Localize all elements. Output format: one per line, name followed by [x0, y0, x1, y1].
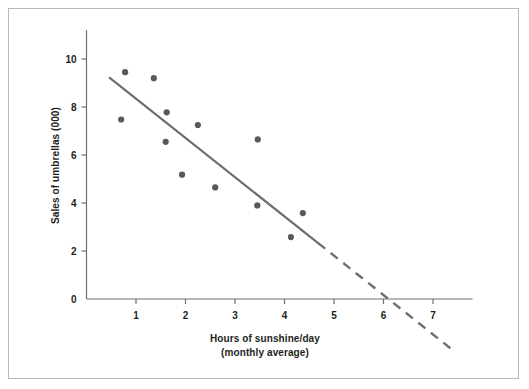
- data-point: [122, 69, 128, 75]
- trend-line: [110, 78, 451, 348]
- data-point: [179, 172, 185, 178]
- scatter-plot-canvas: 02468101234567: [0, 0, 529, 389]
- data-points: [118, 69, 306, 240]
- x-axis-title: Hours of sunshine/day (monthly average): [150, 332, 380, 360]
- x-axis-title-line2: (monthly average): [150, 346, 380, 360]
- y-tick-label: 2: [71, 246, 77, 257]
- x-tick-label: 4: [282, 310, 288, 321]
- data-point: [164, 109, 170, 115]
- x-tick-label: 6: [381, 310, 387, 321]
- y-tick-label: 0: [71, 294, 77, 305]
- regression-line-solid: [110, 78, 318, 243]
- data-point: [118, 116, 124, 122]
- axes: [82, 30, 473, 304]
- x-tick-label: 1: [133, 310, 139, 321]
- y-tick-label: 10: [65, 54, 77, 65]
- data-point: [288, 234, 294, 240]
- x-tick-label: 2: [183, 310, 189, 321]
- data-point: [212, 184, 218, 190]
- x-tick-label: 7: [430, 310, 436, 321]
- x-tick-label: 3: [232, 310, 238, 321]
- x-tick-label: 5: [331, 310, 337, 321]
- x-axis-title-line1: Hours of sunshine/day: [150, 332, 380, 346]
- data-point: [151, 75, 157, 81]
- tick-labels: 02468101234567: [65, 54, 436, 322]
- data-point: [254, 202, 260, 208]
- y-axis-title-text: Sales of umbrellas (000): [50, 106, 61, 226]
- data-point: [255, 136, 261, 142]
- data-point: [300, 210, 306, 216]
- y-tick-label: 6: [71, 150, 77, 161]
- data-point: [195, 122, 201, 128]
- y-tick-label: 8: [71, 102, 77, 113]
- figure-page: 02468101234567 Sales of umbrellas (000) …: [0, 0, 529, 389]
- data-point: [163, 139, 169, 145]
- y-tick-label: 4: [71, 198, 77, 209]
